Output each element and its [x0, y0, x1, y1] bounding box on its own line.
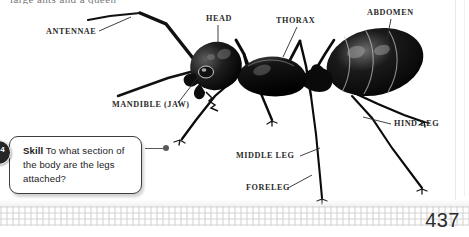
page-number: 437 [425, 209, 460, 232]
cropped-body-text: large ants and a queen [10, 0, 160, 4]
skill-callout-text: Skill To what section of the body are th… [23, 144, 132, 187]
label-middle-leg: MIDDLE LEG [236, 151, 295, 160]
skill-connector-dot [163, 145, 169, 151]
page-edge-line-outer [464, 0, 465, 196]
skill-keyword: Skill [23, 145, 43, 156]
ant-legs [182, 40, 424, 198]
page-edge-line [455, 0, 456, 200]
ant-thorax [237, 57, 306, 97]
label-antennae: ANTENNAE [46, 27, 96, 36]
footer-halftone-band [0, 206, 469, 226]
ant-tarsi [174, 121, 429, 204]
skill-callout: Skill To what section of the body are th… [9, 136, 142, 194]
label-foreleg: FORELEG [246, 183, 290, 192]
skill-connector-line [145, 148, 164, 149]
label-hind-leg: HIND LEG [394, 119, 439, 128]
ant-antennae [88, 13, 198, 96]
label-abdomen: ABDOMEN [367, 8, 414, 17]
label-thorax: THORAX [276, 16, 315, 25]
ant-petiole [300, 62, 333, 92]
textbook-page: large ants and a queen [0, 0, 469, 237]
skill-badge-label: 4 [0, 145, 6, 154]
label-mandible-jaw: MANDIBLE (JAW) [112, 100, 190, 109]
ant-head [184, 35, 248, 97]
ant-abdomen [320, 19, 430, 105]
label-head: HEAD [206, 14, 232, 23]
footer-white-strip [0, 226, 469, 237]
